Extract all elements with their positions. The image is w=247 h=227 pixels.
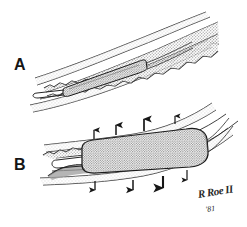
panel-label-b: B [14,157,26,173]
panel-b-inflated-balloon [82,128,208,173]
panel-a-artwork [30,12,219,112]
panel-label-a: A [14,57,26,73]
signature-year: '81 [205,204,216,214]
panel-b-artwork [40,103,238,190]
figure-container: A B R Roe II '81 [0,0,247,227]
